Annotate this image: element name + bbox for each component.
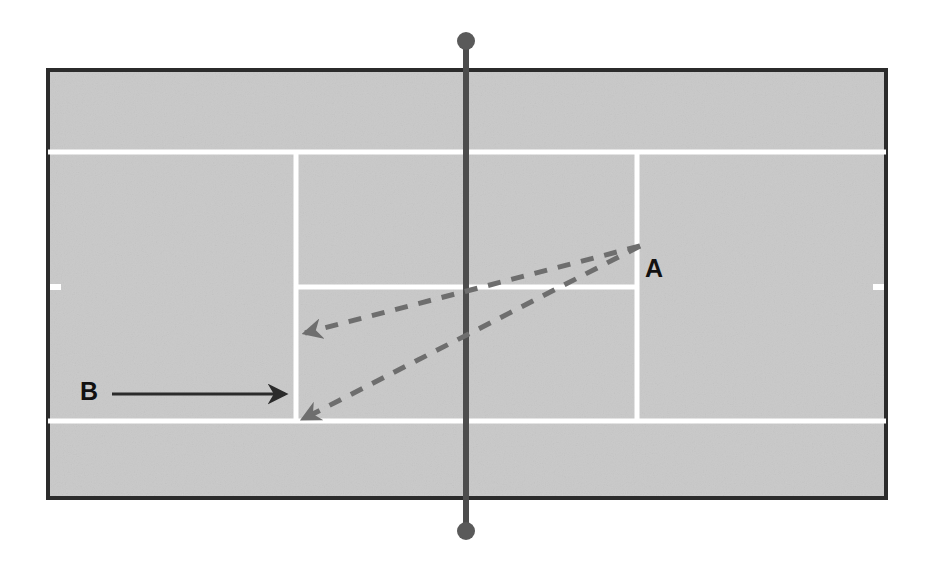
court-graphic — [0, 0, 930, 569]
net-post-top — [457, 32, 475, 50]
player-label-b: B — [80, 379, 98, 404]
right-center-mark-tick — [873, 284, 884, 290]
tennis-court-diagram: A B — [0, 0, 930, 569]
left-center-mark-tick — [50, 284, 61, 290]
net-post-bottom — [457, 522, 475, 540]
player-label-a: A — [645, 256, 663, 281]
